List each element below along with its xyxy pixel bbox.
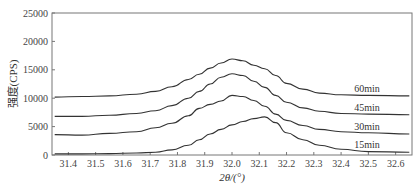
y-tick-label: 25000 bbox=[23, 8, 48, 19]
x-tick-label: 31.4 bbox=[60, 158, 78, 169]
y-tick-label: 20000 bbox=[23, 36, 48, 47]
series-label-45min: 45min bbox=[354, 102, 380, 113]
series-labels: 60min45min30min15min bbox=[354, 83, 380, 150]
x-tick-label: 31.7 bbox=[141, 158, 159, 169]
line-chart: 31.431.531.631.731.831.932.032.132.232.3… bbox=[0, 0, 420, 186]
x-tick-label: 31.6 bbox=[114, 158, 132, 169]
x-tick-label: 31.5 bbox=[87, 158, 105, 169]
series-label-15min: 15min bbox=[354, 139, 380, 150]
series-label-60min: 60min bbox=[354, 83, 380, 94]
y-tick-label: 5000 bbox=[28, 121, 48, 132]
x-tick-label: 31.8 bbox=[169, 158, 187, 169]
x-tick-label: 32.0 bbox=[223, 158, 241, 169]
series-label-30min: 30min bbox=[354, 121, 380, 132]
x-axis-title: 2θ/(°) bbox=[219, 171, 245, 184]
x-tick-label: 32.1 bbox=[251, 158, 269, 169]
x-tick-label: 32.2 bbox=[278, 158, 296, 169]
x-tick-label: 32.6 bbox=[387, 158, 405, 169]
y-axis-title: 强度(CPS) bbox=[6, 59, 20, 108]
y-tick-label: 10000 bbox=[23, 93, 48, 104]
x-tick-label: 31.9 bbox=[196, 158, 214, 169]
x-tick-label: 32.5 bbox=[360, 158, 378, 169]
x-tick-label: 32.4 bbox=[332, 158, 350, 169]
y-tick-label: 0 bbox=[43, 150, 48, 161]
x-tick-label: 32.3 bbox=[305, 158, 323, 169]
y-tick-label: 15000 bbox=[23, 64, 48, 75]
axis-ticks: 31.431.531.631.731.831.932.032.132.232.3… bbox=[23, 8, 404, 170]
